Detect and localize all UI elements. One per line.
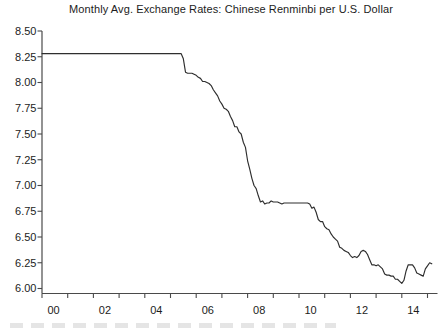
y-tick-label: 7.25 xyxy=(15,154,36,166)
y-tick-label: 6.25 xyxy=(15,257,36,269)
exchange-rate-chart-page: Monthly Avg. Exchange Rates: Chinese Ren… xyxy=(0,0,441,329)
x-tick-label: 12 xyxy=(356,304,368,316)
x-tick-label: 10 xyxy=(304,304,316,316)
y-tick-label: 6.50 xyxy=(15,231,36,243)
y-tick-label: 6.75 xyxy=(15,205,36,217)
x-tick-label: 02 xyxy=(99,304,111,316)
y-tick-label: 8.00 xyxy=(15,76,36,88)
y-tick-label: 8.25 xyxy=(15,51,36,63)
x-tick-label: 08 xyxy=(253,304,265,316)
cropped-caption-remnant xyxy=(10,323,336,328)
x-tick-label: 14 xyxy=(407,304,419,316)
y-tick-label: 8.50 xyxy=(15,25,36,37)
x-tick-label: 00 xyxy=(47,304,59,316)
chart-canvas: 8.508.258.007.757.507.257.006.756.506.25… xyxy=(0,0,441,329)
y-tick-label: 6.00 xyxy=(15,282,36,294)
x-tick-label: 04 xyxy=(150,304,162,316)
y-tick-label: 7.75 xyxy=(15,102,36,114)
y-tick-label: 7.00 xyxy=(15,179,36,191)
exchange-rate-line xyxy=(42,54,432,284)
x-tick-label: 06 xyxy=(202,304,214,316)
y-tick-label: 7.50 xyxy=(15,128,36,140)
